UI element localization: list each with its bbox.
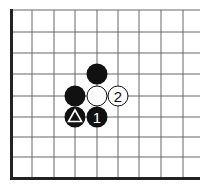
stone-black-triangle [65,107,86,128]
move-number-label: 1 [93,109,101,126]
stone-white [87,86,107,106]
move-number-label: 2 [114,88,122,105]
stone-black [65,86,86,107]
stone-black-move-1: 1 [87,107,108,128]
stone-white-move-2: 2 [108,86,128,106]
go-board-diagram: 2 1 [0,0,205,185]
stone-black [87,64,108,85]
